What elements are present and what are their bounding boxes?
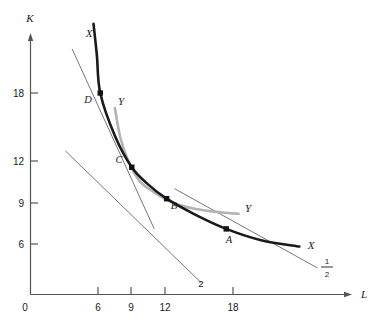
curve-label-x-start: X	[85, 27, 94, 39]
isoquant-curve-x	[94, 24, 300, 247]
x-tick-label-9: 9	[128, 302, 134, 313]
slope-label-2: 2	[198, 278, 203, 289]
data-point-label-b: B	[171, 200, 178, 211]
tangent-line-at-a	[175, 189, 318, 268]
slope-fraction-numerator: 1	[325, 257, 330, 266]
slope-label-one-half: 1 2	[321, 257, 333, 279]
data-point-label-d: D	[83, 94, 92, 105]
slope-fraction-denominator: 2	[325, 270, 330, 279]
data-point-a[interactable]	[224, 226, 229, 231]
curve-label-y-end: Y	[245, 202, 253, 214]
y-axis-title: K	[25, 12, 34, 24]
y-axis-arrow	[28, 33, 33, 41]
curve-label-y-start: Y	[118, 95, 126, 107]
x-tick-label-12: 12	[159, 302, 171, 313]
tangent-line-at-d	[72, 49, 154, 229]
data-point-c[interactable]	[129, 165, 134, 170]
data-point-label-c: C	[115, 154, 123, 165]
isoquant-curve-y	[115, 108, 239, 214]
origin-label: 0	[22, 302, 28, 313]
y-tick-label-6: 6	[18, 239, 24, 250]
isoquant-chart: 18 12 9 6 6 9 12 18 0 K L D C B A X X Y …	[0, 0, 377, 324]
y-tick-label-9: 9	[18, 198, 24, 209]
axes	[28, 33, 352, 297]
curve-label-x-end: X	[307, 239, 316, 251]
y-axis-ticks	[31, 93, 39, 244]
x-axis-ticks	[98, 287, 233, 295]
x-axis-title: L	[360, 288, 367, 300]
y-tick-label-12: 12	[13, 156, 25, 167]
y-tick-label-18: 18	[13, 88, 25, 99]
data-point-d[interactable]	[98, 90, 103, 95]
x-tick-label-18: 18	[227, 302, 239, 313]
x-tick-label-6: 6	[95, 302, 101, 313]
data-point-label-a: A	[225, 234, 233, 245]
data-point-b[interactable]	[164, 196, 169, 201]
tangent-lines	[65, 49, 317, 283]
x-axis-arrow	[344, 292, 352, 297]
